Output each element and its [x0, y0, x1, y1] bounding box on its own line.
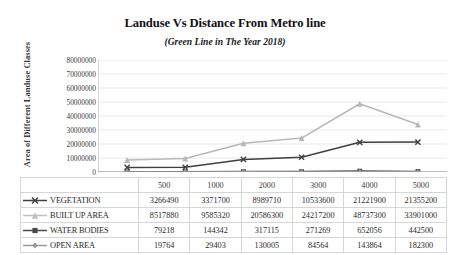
diamond-marker	[23, 241, 47, 250]
table-cell: 143864	[344, 238, 395, 253]
table-cell: 19764	[139, 238, 190, 253]
legend-label: OPEN AREA	[50, 241, 95, 250]
table-cell: 8989710	[241, 193, 292, 208]
legend-label: VEGETATION	[50, 196, 100, 205]
y-tick-label: 40000000	[66, 112, 96, 121]
y-tick-label: 20000000	[66, 140, 96, 149]
table-row: BUILT UP AREA851788095853202058630024217…	[21, 208, 447, 223]
chart-figure: Area of Different Landuse Classes Landus…	[0, 0, 451, 255]
y-tick-label: 30000000	[66, 126, 96, 135]
table-cell: 144342	[190, 223, 241, 238]
legend-label: WATER BODIES	[50, 226, 108, 235]
data-table: 50010002000300040005000VEGETATION3266490…	[20, 177, 447, 253]
legend-swatch	[23, 241, 47, 250]
table-cell: 79218	[139, 223, 190, 238]
table-cell: 20586300	[241, 208, 292, 223]
table-cell: 29403	[190, 238, 241, 253]
legend-item-open-area: OPEN AREA	[21, 238, 139, 253]
table-cell: 652056	[344, 223, 395, 238]
chart-title: Landuse Vs Distance From Metro line	[60, 16, 390, 31]
table-cell: 10533600	[292, 193, 343, 208]
table-row: WATER BODIES7921814434231711527126965205…	[21, 223, 447, 238]
table-cell: 9585320	[190, 208, 241, 223]
x-axis-category-row: 50010002000300040005000	[21, 178, 447, 193]
x-tick-label: 500	[139, 178, 190, 193]
legend-label: BUILT UP AREA	[50, 211, 109, 220]
y-tick-label: 60000000	[66, 84, 96, 93]
table-cell: 24217200	[292, 208, 343, 223]
table-cell: 21355200	[395, 193, 446, 208]
y-axis-tick-labels: 0100000002000000030000000400000005000000…	[44, 60, 96, 172]
y-axis-title: Area of Different Landuse Classes	[23, 20, 32, 190]
table-cell: 317115	[241, 223, 292, 238]
y-tick-label: 10000000	[66, 154, 96, 163]
table-row: VEGETATION326649033717008989710105336002…	[21, 193, 447, 208]
table-cell: 182300	[395, 238, 446, 253]
x-tick-label: 2000	[241, 178, 292, 193]
square-marker	[23, 226, 47, 235]
x-marker	[23, 196, 47, 205]
legend-swatch	[23, 196, 47, 205]
x-tick-label: 5000	[395, 178, 446, 193]
legend-item-water-bodies: WATER BODIES	[21, 223, 139, 238]
x-tick-label: 4000	[344, 178, 395, 193]
table-cell: 21221900	[344, 193, 395, 208]
legend-item-vegetation: VEGETATION	[21, 193, 139, 208]
y-tick-label: 0	[92, 168, 96, 177]
legend-swatch	[23, 211, 47, 220]
y-tick-label: 80000000	[66, 56, 96, 65]
table-cell: 442500	[395, 223, 446, 238]
plot-area	[98, 60, 447, 172]
series-built-up-area	[124, 101, 421, 163]
table-cell: 130005	[241, 238, 292, 253]
y-tick-label: 50000000	[66, 98, 96, 107]
legend-item-built-up-area: BUILT UP AREA	[21, 208, 139, 223]
table-cell: 3371700	[190, 193, 241, 208]
table-cell: 84564	[292, 238, 343, 253]
y-tick-label: 70000000	[66, 70, 96, 79]
table-cell: 33901000	[395, 208, 446, 223]
table-cell: 3266490	[139, 193, 190, 208]
table-cell: 271269	[292, 223, 343, 238]
legend-swatch	[23, 226, 47, 235]
x-tick-label: 3000	[292, 178, 343, 193]
legend-header-cell	[21, 178, 139, 193]
line-chart-svg	[98, 60, 447, 172]
triangle-marker	[23, 211, 47, 220]
table-cell: 48737300	[344, 208, 395, 223]
table-cell: 8517880	[139, 208, 190, 223]
x-tick-label: 1000	[190, 178, 241, 193]
chart-subtitle: (Green Line in The Year 2018)	[60, 36, 390, 47]
table-row: OPEN AREA1976429403130005845641438641823…	[21, 238, 447, 253]
